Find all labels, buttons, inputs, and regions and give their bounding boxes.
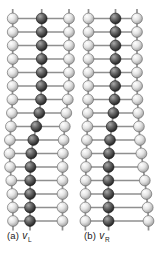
light-atom xyxy=(57,189,68,200)
light-atom xyxy=(7,189,18,200)
dark-atom xyxy=(26,148,37,159)
dark-atom xyxy=(36,13,47,24)
panel-a-structure xyxy=(4,9,74,231)
light-atom xyxy=(132,54,143,65)
dark-atom xyxy=(25,189,36,200)
caption-panel-a: (a)vL xyxy=(7,230,31,241)
light-atom xyxy=(83,81,94,92)
dark-atom xyxy=(110,27,121,38)
dark-atom xyxy=(36,54,47,65)
caption-panel-b: (b)vR xyxy=(84,230,109,241)
light-atom xyxy=(83,67,94,78)
light-atom xyxy=(80,175,91,186)
dark-atom xyxy=(103,216,114,227)
light-atom xyxy=(83,27,94,38)
light-atom xyxy=(7,67,18,78)
light-atom xyxy=(82,108,93,119)
light-atom xyxy=(64,67,75,78)
dark-atom xyxy=(104,148,115,159)
panel-a-symbol: v xyxy=(22,230,27,241)
light-atom xyxy=(134,121,145,132)
light-atom xyxy=(80,189,91,200)
light-atom xyxy=(7,13,18,24)
light-atom xyxy=(7,54,18,65)
light-atom xyxy=(142,202,153,213)
light-atom xyxy=(64,54,75,65)
dark-atom xyxy=(103,175,114,186)
panel-b-structure xyxy=(80,9,154,231)
light-atom xyxy=(58,148,69,159)
dark-atom xyxy=(34,108,45,119)
light-atom xyxy=(132,67,143,78)
light-atom xyxy=(132,27,143,38)
dark-atom xyxy=(110,54,121,65)
light-atom xyxy=(7,94,18,105)
light-atom xyxy=(7,81,18,92)
dark-atom xyxy=(36,40,47,51)
dark-atom xyxy=(103,162,114,173)
light-atom xyxy=(61,108,72,119)
light-atom xyxy=(132,81,143,92)
light-atom xyxy=(5,121,16,132)
dark-atom xyxy=(105,135,116,146)
dark-atom xyxy=(36,81,47,92)
light-atom xyxy=(64,13,75,24)
light-atom xyxy=(6,175,17,186)
dark-atom xyxy=(36,94,47,105)
dark-atom xyxy=(25,202,36,213)
figure-canvas: (a)vL (b)vR xyxy=(0,0,160,254)
light-atom xyxy=(83,13,94,24)
light-atom xyxy=(83,54,94,65)
light-atom xyxy=(82,121,93,132)
light-atom xyxy=(80,202,91,213)
light-atom xyxy=(82,135,93,146)
light-atom xyxy=(81,148,92,159)
ball-stick-figure xyxy=(0,0,160,254)
dark-atom xyxy=(36,67,47,78)
light-atom xyxy=(64,27,75,38)
panel-b-index-label: (b) xyxy=(84,230,96,241)
dark-atom xyxy=(28,135,39,146)
light-atom xyxy=(57,162,68,173)
light-atom xyxy=(4,148,15,159)
light-atom xyxy=(57,202,68,213)
light-atom xyxy=(133,108,144,119)
dark-atom xyxy=(109,94,120,105)
light-atom xyxy=(64,81,75,92)
light-atom xyxy=(8,216,19,227)
light-atom xyxy=(80,216,91,227)
light-atom xyxy=(136,148,147,159)
dark-atom xyxy=(106,121,117,132)
panel-a-symbol-subscript: L xyxy=(28,236,32,243)
light-atom xyxy=(7,40,18,51)
light-atom xyxy=(62,94,73,105)
light-atom xyxy=(7,27,18,38)
dark-atom xyxy=(110,67,121,78)
dark-atom xyxy=(25,216,36,227)
dark-atom xyxy=(25,175,36,186)
light-atom xyxy=(143,216,154,227)
light-atom xyxy=(58,135,69,146)
light-atom xyxy=(6,108,17,119)
light-atom xyxy=(132,40,143,51)
dark-atom xyxy=(110,13,121,24)
light-atom xyxy=(132,94,143,105)
light-atom xyxy=(83,40,94,51)
dark-atom xyxy=(110,81,121,92)
dark-atom xyxy=(103,189,114,200)
dark-atom xyxy=(108,108,119,119)
light-atom xyxy=(5,162,16,173)
light-atom xyxy=(57,175,68,186)
panel-b-symbol-subscript: R xyxy=(105,236,110,243)
light-atom xyxy=(64,40,75,51)
light-atom xyxy=(141,189,152,200)
light-atom xyxy=(83,94,94,105)
light-atom xyxy=(132,13,143,24)
light-atom xyxy=(57,216,68,227)
dark-atom xyxy=(110,40,121,51)
light-atom xyxy=(7,202,18,213)
dark-atom xyxy=(25,162,36,173)
light-atom xyxy=(81,162,92,173)
light-atom xyxy=(135,135,146,146)
panel-b-symbol: v xyxy=(99,230,104,241)
